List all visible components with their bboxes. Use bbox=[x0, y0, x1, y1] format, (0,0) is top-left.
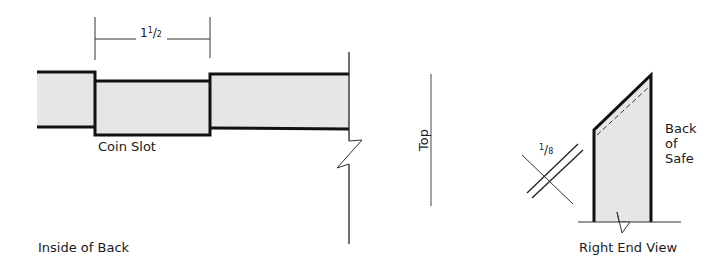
safe-label: Safe bbox=[665, 151, 694, 166]
back-panel-cross-section bbox=[37, 72, 349, 135]
inside-of-back-caption: Inside of Back bbox=[38, 240, 129, 255]
diagram-canvas bbox=[0, 0, 727, 276]
coin-slot-label: Coin Slot bbox=[98, 139, 156, 154]
top-label: Top bbox=[416, 129, 431, 151]
thickness-label: 1/8 bbox=[539, 143, 553, 157]
right-end-view-caption: Right End View bbox=[579, 240, 677, 255]
of-label: of bbox=[665, 136, 678, 151]
dimension-label: 11/2 bbox=[140, 26, 162, 40]
back-label: Back bbox=[665, 121, 697, 136]
